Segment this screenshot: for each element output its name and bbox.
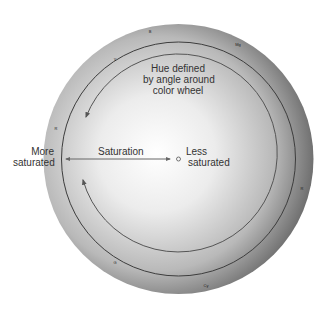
saturation-label: Saturation: [98, 146, 144, 157]
more-saturated-line-2: saturated: [13, 157, 54, 168]
hue-label: Hue defined by angle around color wheel: [143, 63, 213, 96]
hue-label-line-3: color wheel: [143, 85, 213, 96]
hue-label-line-2: by angle around: [143, 74, 213, 85]
more-saturated-line-1: More: [13, 146, 54, 157]
more-saturated-label: More saturated: [13, 146, 54, 168]
less-saturated-line-2: saturated: [184, 157, 230, 168]
color-wheel-diagram: Hue defined by angle around color wheel …: [0, 0, 329, 309]
less-saturated-line-1: Less: [184, 146, 230, 157]
rim-label: G: [113, 260, 116, 265]
rim-label: B: [149, 29, 152, 34]
rim-label: Y: [114, 57, 117, 62]
rim-label: Mg: [235, 42, 241, 47]
less-saturated-label: Less saturated: [184, 146, 230, 168]
rim-label: Cy: [204, 283, 209, 288]
rim-label: R: [301, 186, 304, 191]
hue-label-line-1: Hue defined: [143, 63, 213, 74]
rim-label: R: [55, 126, 58, 131]
